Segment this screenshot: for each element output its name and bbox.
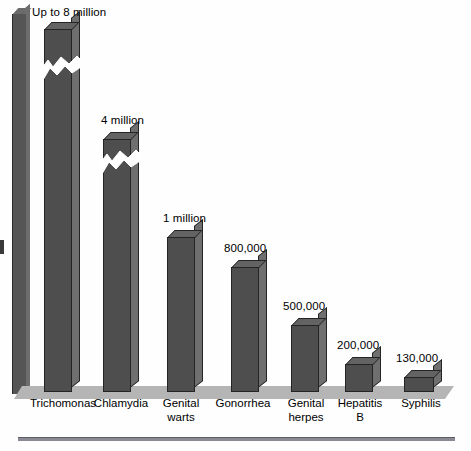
bar-front-face xyxy=(167,237,195,392)
bar-syphilis xyxy=(404,370,434,392)
value-label-gonorrhea: 800,000 xyxy=(224,242,266,254)
bar-side-face xyxy=(194,219,203,388)
value-label-hepatitis-b: 200,000 xyxy=(337,339,379,351)
bar-front-face xyxy=(404,377,434,392)
bar-genital-warts xyxy=(167,230,195,392)
bar-front-face xyxy=(291,325,319,392)
bar-trichomonas xyxy=(44,22,72,392)
value-label-trichomonas: Up to 8 million xyxy=(32,6,106,18)
bar-side-face xyxy=(372,346,381,388)
bar-hepatitis-b xyxy=(345,357,373,392)
bar-front-face xyxy=(345,364,373,392)
bar-side-face xyxy=(130,121,139,388)
bar-front-face xyxy=(103,139,131,392)
bar-chlamydia xyxy=(103,132,131,392)
category-label-syphilis: Syphilis xyxy=(391,397,451,411)
category-label-trichomonas: Trichomonas xyxy=(30,397,88,411)
category-label-genital-warts: Genital warts xyxy=(152,397,210,424)
value-label-genital-warts: 1 million xyxy=(163,212,206,224)
bar-front-face xyxy=(231,267,259,392)
category-label-hepatitis-b: Hepatitis B xyxy=(331,397,389,424)
std-prevalence-bar-chart: Up to 8 millionTrichomonas4 millionChlam… xyxy=(0,0,471,451)
bar-front-face xyxy=(44,29,72,392)
value-label-chlamydia: 4 million xyxy=(101,114,144,126)
value-label-syphilis: 130,000 xyxy=(396,352,438,364)
category-label-gonorrhea: Gonorrhea xyxy=(214,397,272,411)
y-axis-front-face xyxy=(12,14,26,394)
left-edge-mark xyxy=(0,240,4,254)
bar-side-face xyxy=(71,11,80,388)
category-label-chlamydia: Chlamydia xyxy=(92,397,150,411)
bar-genital-herpes xyxy=(291,318,319,392)
category-label-genital-herpes: Genital herpes xyxy=(277,397,335,424)
bottom-divider-rule xyxy=(18,437,455,441)
y-axis-slab xyxy=(12,8,29,394)
value-label-genital-herpes: 500,000 xyxy=(283,300,325,312)
bar-gonorrhea xyxy=(231,260,259,392)
bar-side-face xyxy=(258,249,267,388)
